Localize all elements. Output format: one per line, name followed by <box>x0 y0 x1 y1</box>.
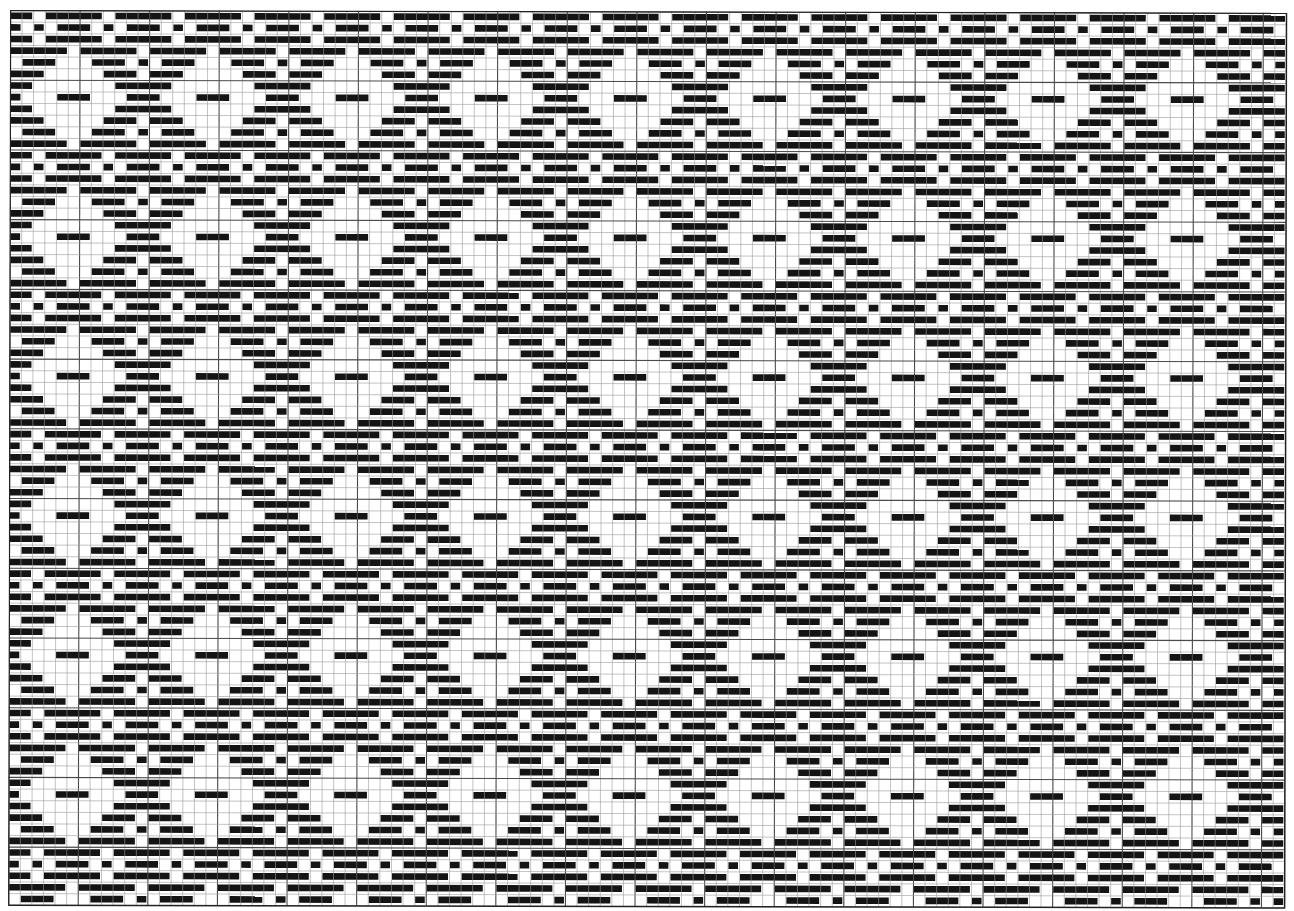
pattern-grid-canvas <box>8 10 1288 910</box>
weaving-draft-grid <box>8 10 1288 910</box>
